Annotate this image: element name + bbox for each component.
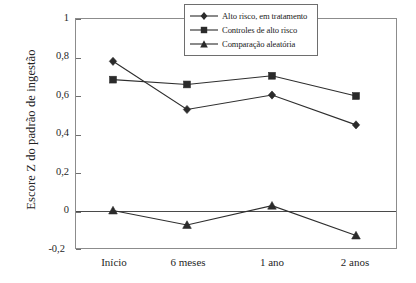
y-tick-label-0.8: 0,8 [33,50,69,61]
y-tick-label-1: 1 [33,12,69,23]
legend-item-alto-risco-em-tratamento[interactable]: Alto risco, em tratamento [189,9,313,22]
legend-item-comparacao-aleatoria[interactable]: Comparação aleatória [189,37,313,50]
data-point[interactable] [268,91,275,99]
series-line-0 [113,61,356,125]
data-point[interactable] [184,81,191,88]
diamond-marker-icon [189,10,219,22]
y-tick-label-0: 0 [33,204,69,215]
y-tick-label-0.6: 0,6 [33,89,69,100]
legend-item-controles-de-alto-risco[interactable]: Controles de alto risco [189,23,313,36]
data-point[interactable] [110,76,117,83]
data-point[interactable] [269,72,276,79]
data-point[interactable] [268,202,277,210]
data-point[interactable] [183,105,190,113]
x-tick-label-inicio: Início [74,256,154,268]
y-tick-label--0.2: -0,2 [29,243,65,254]
square-marker-icon [189,24,219,36]
data-point[interactable] [352,231,361,239]
legend-box: Alto risco, em tratamento Controles de a… [184,4,318,56]
series-line-1 [113,76,356,96]
series-line-2 [113,206,356,236]
y-tick-label-0.4: 0,4 [33,127,69,138]
data-point[interactable] [353,93,360,100]
chart-figure: Escore Z do padrão de ingestão 1 0,8 0,6… [0,0,416,283]
triangle-marker-icon [189,38,219,50]
data-point[interactable] [352,121,359,129]
legend-label: Alto risco, em tratamento [219,11,307,21]
data-point[interactable] [109,206,118,214]
y-tick-label-0.2: 0,2 [33,166,69,177]
x-tick-label-2-anos: 2 anos [315,256,395,268]
data-point[interactable] [109,57,116,65]
legend-label: Comparação aleatória [219,39,295,49]
legend-label: Controles de alto risco [219,25,297,35]
x-tick-label-1-ano: 1 ano [232,256,312,268]
x-tick-label-6-meses: 6 meses [148,256,228,268]
